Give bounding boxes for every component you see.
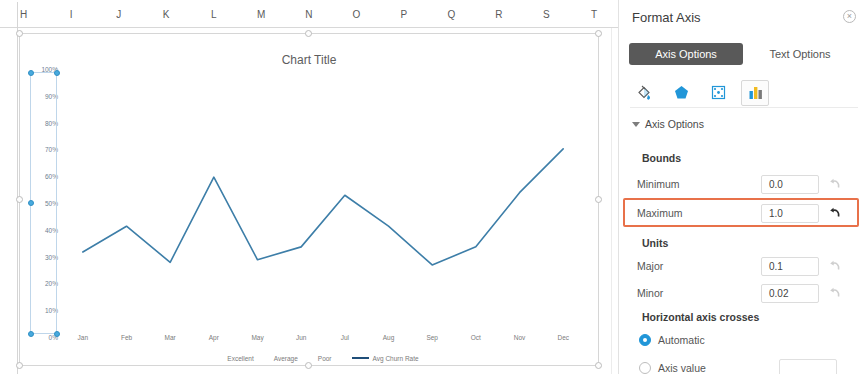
panel-icon-row <box>630 78 858 108</box>
chart-resize-handle-top-left[interactable] <box>16 30 23 37</box>
reset-minimum-icon[interactable] <box>823 175 845 193</box>
axis-resize-handle-top-left[interactable] <box>28 70 34 76</box>
x-tick-label: Feb <box>105 334 149 350</box>
legend-item-poor[interactable]: Poor <box>318 355 332 362</box>
chart-resize-handle-bottom-left[interactable] <box>16 362 23 369</box>
legend-item-average[interactable]: Average <box>274 355 298 362</box>
legend-item-label: Excellent <box>227 355 253 362</box>
chart-resize-handle-middle-left[interactable] <box>16 196 23 203</box>
column-header-q[interactable]: Q <box>428 9 476 20</box>
column-header-r[interactable]: R <box>475 9 523 20</box>
size-properties-glyph <box>709 83 728 102</box>
x-tick-label: Mar <box>148 334 192 350</box>
vertical-axis-selection[interactable] <box>30 72 57 334</box>
chart-resize-handle-middle-right[interactable] <box>595 196 602 203</box>
legend-item-label: Poor <box>318 355 332 362</box>
x-tick-label: Jul <box>323 334 367 350</box>
chart-title[interactable]: Chart Title <box>20 53 598 67</box>
reset-arrow-glyph <box>827 177 842 191</box>
tab-text-options[interactable]: Text Options <box>743 43 857 65</box>
reset-maximum-icon[interactable] <box>823 204 845 222</box>
radio-axis-value[interactable] <box>639 362 651 374</box>
column-header-i[interactable]: I <box>48 9 96 20</box>
radio-automatic-row[interactable]: Automatic <box>639 329 859 351</box>
column-header-t[interactable]: T <box>570 9 618 20</box>
chart-resize-handle-bottom-right[interactable] <box>595 362 602 369</box>
spreadsheet-area: H I J K L M N O P Q R S T Chart Title <box>0 0 618 383</box>
minimum-bound-row: Minimum 0.0 <box>637 172 859 196</box>
reset-arrow-glyph <box>827 206 842 220</box>
maximum-input[interactable]: 1.0 <box>761 204 819 223</box>
chart-plot-area[interactable] <box>61 74 585 332</box>
x-tick-label: Oct <box>454 334 498 350</box>
column-header-p[interactable]: P <box>380 9 428 20</box>
legend-item-label: Average <box>274 355 298 362</box>
major-label: Major <box>637 260 761 272</box>
format-axis-panel: Format Axis × Axis Options Text Options <box>618 0 864 383</box>
axis-resize-handle-top-right[interactable] <box>54 70 60 76</box>
bounds-group-label: Bounds <box>642 152 681 164</box>
reset-major-icon[interactable] <box>823 257 845 275</box>
legend-item-excellent[interactable]: Excellent <box>227 355 253 362</box>
radio-automatic[interactable] <box>639 334 651 346</box>
bottom-edge <box>0 374 864 383</box>
axis-options-section-toggle[interactable]: Axis Options <box>632 118 704 130</box>
x-tick-label: Apr <box>192 334 236 350</box>
effects-icon[interactable] <box>667 80 695 106</box>
radio-axis-value-label: Axis value <box>658 362 706 374</box>
chart-resize-handle-bottom-center[interactable] <box>305 362 312 369</box>
x-tick-label: Sep <box>410 334 454 350</box>
x-tick-label: Aug <box>367 334 411 350</box>
axis-options-chart-icon[interactable] <box>741 80 769 106</box>
column-header-j[interactable]: J <box>95 9 143 20</box>
reset-arrow-glyph <box>827 259 842 273</box>
column-header-h[interactable]: H <box>0 9 48 20</box>
tab-axis-options[interactable]: Axis Options <box>629 43 743 65</box>
chart-resize-handle-top-right[interactable] <box>595 30 602 37</box>
axis-options-section-label: Axis Options <box>645 118 704 130</box>
axis-resize-handle-bottom-right[interactable] <box>54 331 60 337</box>
legend-line-swatch <box>352 357 369 359</box>
bar-chart-glyph <box>746 83 765 102</box>
column-header-row: H I J K L M N O P Q R S T <box>0 2 618 28</box>
minor-input[interactable]: 0.02 <box>761 284 819 303</box>
minor-unit-row: Minor 0.02 <box>637 281 859 305</box>
panel-title: Format Axis <box>632 10 701 25</box>
major-input[interactable]: 0.1 <box>761 257 819 276</box>
pentagon-glyph <box>672 83 691 102</box>
minimum-input[interactable]: 0.0 <box>761 175 819 194</box>
radio-automatic-label: Automatic <box>658 334 705 346</box>
chart-resize-handle-top-center[interactable] <box>305 30 312 37</box>
major-unit-row: Major 0.1 <box>637 254 859 278</box>
reset-arrow-glyph <box>827 286 842 300</box>
fill-and-line-icon[interactable] <box>630 80 658 106</box>
chart-legend[interactable]: Excellent Average Poor Avg Churn Rate <box>61 350 585 366</box>
horizontal-axis-crosses-label: Horizontal axis crosses <box>642 311 759 323</box>
excel-chart-format-axis-screen: H I J K L M N O P Q R S T Chart Title <box>0 0 864 383</box>
column-header-k[interactable]: K <box>143 9 191 20</box>
panel-tabs: Axis Options Text Options <box>629 43 857 65</box>
column-header-s[interactable]: S <box>523 9 571 20</box>
column-header-o[interactable]: O <box>333 9 381 20</box>
x-tick-label: Jun <box>279 334 323 350</box>
size-and-properties-icon[interactable] <box>704 80 732 106</box>
axis-resize-handle-middle-left[interactable] <box>28 200 34 206</box>
horizontal-axis-labels[interactable]: Jan Feb Mar Apr May Jun Jul Aug Sep Oct … <box>61 334 585 350</box>
minimum-label: Minimum <box>637 178 761 190</box>
close-icon[interactable]: × <box>843 10 856 23</box>
column-header-n[interactable]: N <box>285 9 333 20</box>
series-avg-churn-rate-line <box>83 149 563 265</box>
maximum-bound-row: Maximum 1.0 <box>637 201 859 225</box>
column-header-m[interactable]: M <box>238 9 286 20</box>
column-header-l[interactable]: L <box>190 9 238 20</box>
x-tick-label: Jan <box>61 334 105 350</box>
x-tick-label: Dec <box>541 334 585 350</box>
chevron-down-icon <box>632 122 640 127</box>
reset-minor-icon[interactable] <box>823 284 845 302</box>
x-tick-label: May <box>236 334 280 350</box>
chart-object[interactable]: Chart Title 100% 90% 80% 70% 60% 50% 40%… <box>19 33 599 366</box>
axis-resize-handle-bottom-left[interactable] <box>28 331 34 337</box>
maximum-label: Maximum <box>637 207 761 219</box>
legend-item-avg-churn-rate[interactable]: Avg Churn Rate <box>352 355 419 362</box>
x-tick-label: Nov <box>498 334 542 350</box>
